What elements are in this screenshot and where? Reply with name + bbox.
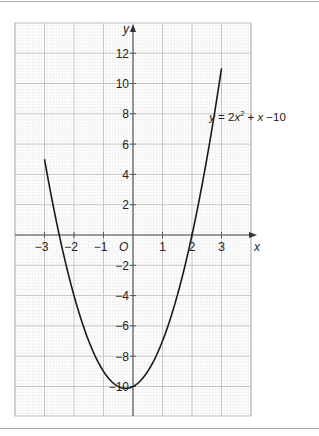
y-tick-label: −8 [115,350,129,364]
y-tick-label: −6 [115,319,129,333]
y-tick-label: 8 [122,107,129,121]
x-tick-label: −3 [35,240,49,254]
y-tick-label: 6 [122,138,129,152]
origin-label: O [119,240,128,254]
y-tick-label: −4 [115,289,129,303]
x-tick-label: −1 [94,240,108,254]
y-tick-label: −2 [115,259,129,273]
equation-label: y = 2x2 + x −10 [208,109,286,123]
x-tick-label: 3 [218,240,225,254]
equation-label-part: = 2 [215,111,235,123]
x-axis-arrow [249,232,257,238]
x-tick-label: −2 [64,240,78,254]
y-tick-label: 4 [122,168,129,182]
equation-label-part: + [244,111,257,123]
y-tick-label: 2 [122,198,129,212]
y-axis-arrow [130,24,136,32]
y-axis-label: y [122,22,130,36]
y-tick-label: 12 [116,47,130,61]
x-tick-label: 1 [159,240,166,254]
equation-label-part: −10 [263,111,286,123]
quadratic-graph: −3−2−112312108642−2−4−6−8−10 y = 2x2 + x… [0,0,319,436]
y-tick-label: 10 [116,77,130,91]
x-axis-label: x [253,240,261,254]
